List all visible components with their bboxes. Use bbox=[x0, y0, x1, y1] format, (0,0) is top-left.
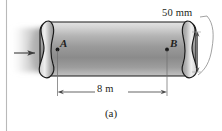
length-dimension-label: 8 m bbox=[97, 84, 114, 95]
diameter-dimension-label: 50 mm bbox=[162, 8, 192, 19]
figure-container: 50 mm 8 m A B (a) bbox=[0, 0, 222, 131]
point-b-label: B bbox=[170, 38, 177, 49]
figure-caption: (a) bbox=[0, 108, 222, 119]
vessel-barrel bbox=[40, 22, 196, 76]
point-a-label: A bbox=[60, 38, 67, 49]
